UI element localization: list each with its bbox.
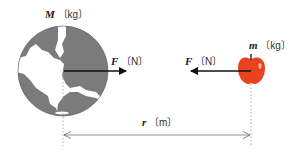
force-on-apple-label: F 〔N〕: [185, 53, 222, 68]
force-on-earth-unit: 〔N〕: [121, 56, 148, 67]
earth-mass-label: M 〔kg〕: [45, 6, 88, 21]
distance-label: r 〔m〕: [142, 114, 177, 129]
force-on-earth-label: F 〔N〕: [111, 53, 148, 68]
apple-mass-unit: 〔kg〕: [260, 40, 291, 51]
earth-mass-unit: 〔kg〕: [58, 9, 89, 20]
apple-icon: [238, 54, 265, 84]
earth-mass-symbol: M: [45, 8, 55, 20]
force-on-apple-symbol: F: [185, 55, 192, 67]
distance-symbol: r: [142, 116, 146, 128]
force-on-earth-symbol: F: [111, 55, 118, 67]
apple-mass-label: m 〔kg〕: [249, 37, 291, 52]
earth-icon: [16, 24, 112, 120]
force-on-apple-unit: 〔N〕: [195, 56, 222, 67]
apple-mass-symbol: m: [249, 39, 258, 51]
gravitation-diagram: [0, 0, 303, 154]
distance-unit: 〔m〕: [149, 117, 177, 128]
